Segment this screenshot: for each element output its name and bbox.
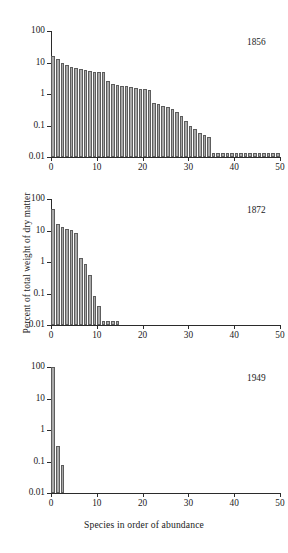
x-axis-tick-label: 10 xyxy=(92,163,101,172)
bar xyxy=(235,153,239,157)
bar xyxy=(139,89,143,157)
bar xyxy=(262,153,266,157)
x-axis-tick xyxy=(143,493,144,497)
y-axis-tick-label: 0.1 xyxy=(33,289,45,298)
y-axis-tick-label: 100 xyxy=(31,362,45,371)
x-axis-tick xyxy=(188,493,189,497)
y-axis-tick-label: 100 xyxy=(31,194,45,203)
y-axis-tick-label: 0.01 xyxy=(29,320,45,329)
year-label: 1949 xyxy=(247,373,266,383)
y-axis-tick xyxy=(47,231,51,232)
bar xyxy=(171,109,175,157)
x-axis-tick xyxy=(188,157,189,161)
x-axis-tick xyxy=(234,325,235,329)
bar xyxy=(106,321,110,325)
year-label: 1872 xyxy=(247,205,266,215)
x-axis-tick-label: 50 xyxy=(275,331,284,340)
bar xyxy=(276,153,280,157)
bar xyxy=(61,63,65,157)
bar xyxy=(166,107,170,157)
bar xyxy=(161,106,165,157)
bar xyxy=(74,233,78,325)
bar xyxy=(79,258,83,325)
y-axis-tick xyxy=(47,126,51,127)
bar xyxy=(51,367,55,493)
y-axis-label: Percent of total weight of dry matter xyxy=(22,158,32,368)
bar xyxy=(157,104,161,157)
x-axis-tick-label: 0 xyxy=(49,499,54,508)
bar xyxy=(152,103,156,157)
bar xyxy=(51,209,55,325)
x-axis-tick-label: 20 xyxy=(138,163,147,172)
bar xyxy=(111,84,115,157)
x-axis-label: Species in order of abundance xyxy=(0,519,288,530)
bar xyxy=(258,153,262,157)
y-axis-tick xyxy=(47,294,51,295)
x-axis-tick xyxy=(280,493,281,497)
bar xyxy=(198,133,202,158)
bar xyxy=(216,153,220,157)
y-axis-tick-label: 1 xyxy=(40,257,45,266)
plot-area: 1001010.10.0101020304050 xyxy=(51,31,280,157)
bar xyxy=(221,153,225,157)
bar xyxy=(102,72,106,157)
x-axis-tick xyxy=(280,157,281,161)
y-axis-tick xyxy=(47,63,51,64)
plot-area: 1001010.10.0101020304050 xyxy=(51,199,280,325)
bar xyxy=(129,87,133,157)
bar xyxy=(65,65,69,157)
x-axis-tick xyxy=(143,157,144,161)
bar xyxy=(212,153,216,157)
x-axis-tick-label: 40 xyxy=(230,499,239,508)
x-axis-tick xyxy=(188,325,189,329)
x-axis-tick-label: 50 xyxy=(275,499,284,508)
y-axis-tick xyxy=(47,399,51,400)
bar xyxy=(65,229,69,325)
bar xyxy=(143,89,147,157)
x-axis-tick xyxy=(97,157,98,161)
bar xyxy=(93,296,97,325)
y-axis-tick-label: 0.1 xyxy=(33,457,45,466)
bar xyxy=(248,153,252,157)
x-axis-tick xyxy=(51,493,52,497)
bar xyxy=(93,72,97,157)
y-axis-tick xyxy=(47,199,51,200)
bar xyxy=(189,126,193,158)
bar xyxy=(51,56,55,157)
bar xyxy=(180,116,184,157)
x-axis-line xyxy=(51,325,280,326)
bar xyxy=(61,465,65,493)
bar xyxy=(70,67,74,157)
bar xyxy=(88,275,92,325)
bar xyxy=(97,306,101,325)
rank-abundance-figure: Percent of total weight of dry matter 10… xyxy=(0,0,288,553)
x-axis-tick xyxy=(234,157,235,161)
x-axis-tick-label: 20 xyxy=(138,499,147,508)
bar xyxy=(116,85,120,157)
bar xyxy=(102,321,106,325)
bar xyxy=(253,153,257,157)
y-axis-tick-label: 100 xyxy=(31,26,45,35)
y-axis-tick-label: 10 xyxy=(36,58,45,67)
bar xyxy=(226,153,230,157)
y-axis-tick-label: 0.01 xyxy=(29,152,45,161)
x-axis-tick-label: 20 xyxy=(138,331,147,340)
y-axis-tick-label: 0.1 xyxy=(33,121,45,130)
bar xyxy=(120,86,124,157)
y-axis-tick xyxy=(47,94,51,95)
bar xyxy=(84,70,88,157)
x-axis-tick-label: 10 xyxy=(92,499,101,508)
bar xyxy=(148,90,152,157)
bar xyxy=(56,446,60,493)
x-axis-tick xyxy=(51,325,52,329)
bar xyxy=(56,224,60,325)
x-axis-tick-label: 40 xyxy=(230,331,239,340)
bar xyxy=(88,71,92,157)
y-axis-tick-label: 0.01 xyxy=(29,488,45,497)
bar xyxy=(84,264,88,325)
x-axis-tick-label: 50 xyxy=(275,163,284,172)
y-axis-tick-label: 10 xyxy=(36,394,45,403)
bar xyxy=(271,153,275,157)
bar xyxy=(74,68,78,157)
x-axis-tick xyxy=(97,493,98,497)
